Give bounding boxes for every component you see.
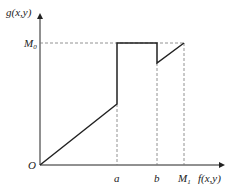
function-curve bbox=[40, 43, 184, 165]
a-label: a bbox=[114, 172, 120, 184]
m0-label: M0 bbox=[23, 37, 37, 51]
m1-label: M1 bbox=[177, 172, 191, 186]
origin-label: O bbox=[28, 159, 36, 171]
x-axis-label: f(x,y) bbox=[198, 172, 221, 185]
y-axis-label: g(x,y) bbox=[6, 6, 32, 19]
b-label: b bbox=[154, 172, 160, 184]
diagram: g(x,y) f(x,y) O a b M1 M0 bbox=[0, 0, 237, 189]
